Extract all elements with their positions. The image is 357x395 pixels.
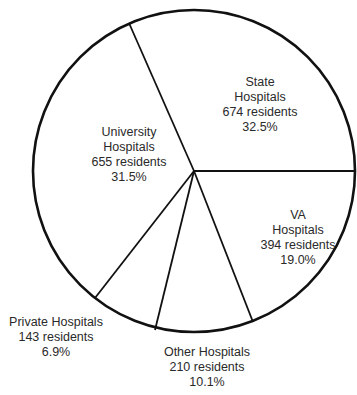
label-line2: Hospitals: [222, 90, 297, 105]
label-residents: 674 residents: [222, 105, 297, 120]
slice-label-private: Private Hospitals 143 residents 6.9%: [9, 315, 103, 360]
label-percent: 19.0%: [260, 253, 335, 268]
label-residents: 210 residents: [164, 360, 250, 375]
label-line1: VA: [260, 208, 335, 223]
divider-va-other: [194, 171, 253, 322]
label-line1: Private Hospitals: [9, 315, 103, 330]
label-line2: Hospitals: [260, 223, 335, 238]
label-percent: 31.5%: [91, 170, 166, 185]
label-residents: 394 residents: [260, 238, 335, 253]
slice-label-state: State Hospitals 674 residents 32.5%: [222, 75, 297, 135]
slice-label-university: University Hospitals 655 residents 31.5%: [91, 125, 166, 185]
label-line1: University: [91, 125, 166, 140]
label-residents: 143 residents: [9, 330, 103, 345]
label-residents: 655 residents: [91, 155, 166, 170]
label-line1: Other Hospitals: [164, 345, 250, 360]
label-line1: State: [222, 75, 297, 90]
slice-label-va: VA Hospitals 394 residents 19.0%: [260, 208, 335, 268]
label-percent: 10.1%: [164, 375, 250, 390]
slice-label-other: Other Hospitals 210 residents 10.1%: [164, 345, 250, 390]
label-percent: 6.9%: [9, 345, 103, 360]
label-line2: Hospitals: [91, 140, 166, 155]
label-percent: 32.5%: [222, 120, 297, 135]
